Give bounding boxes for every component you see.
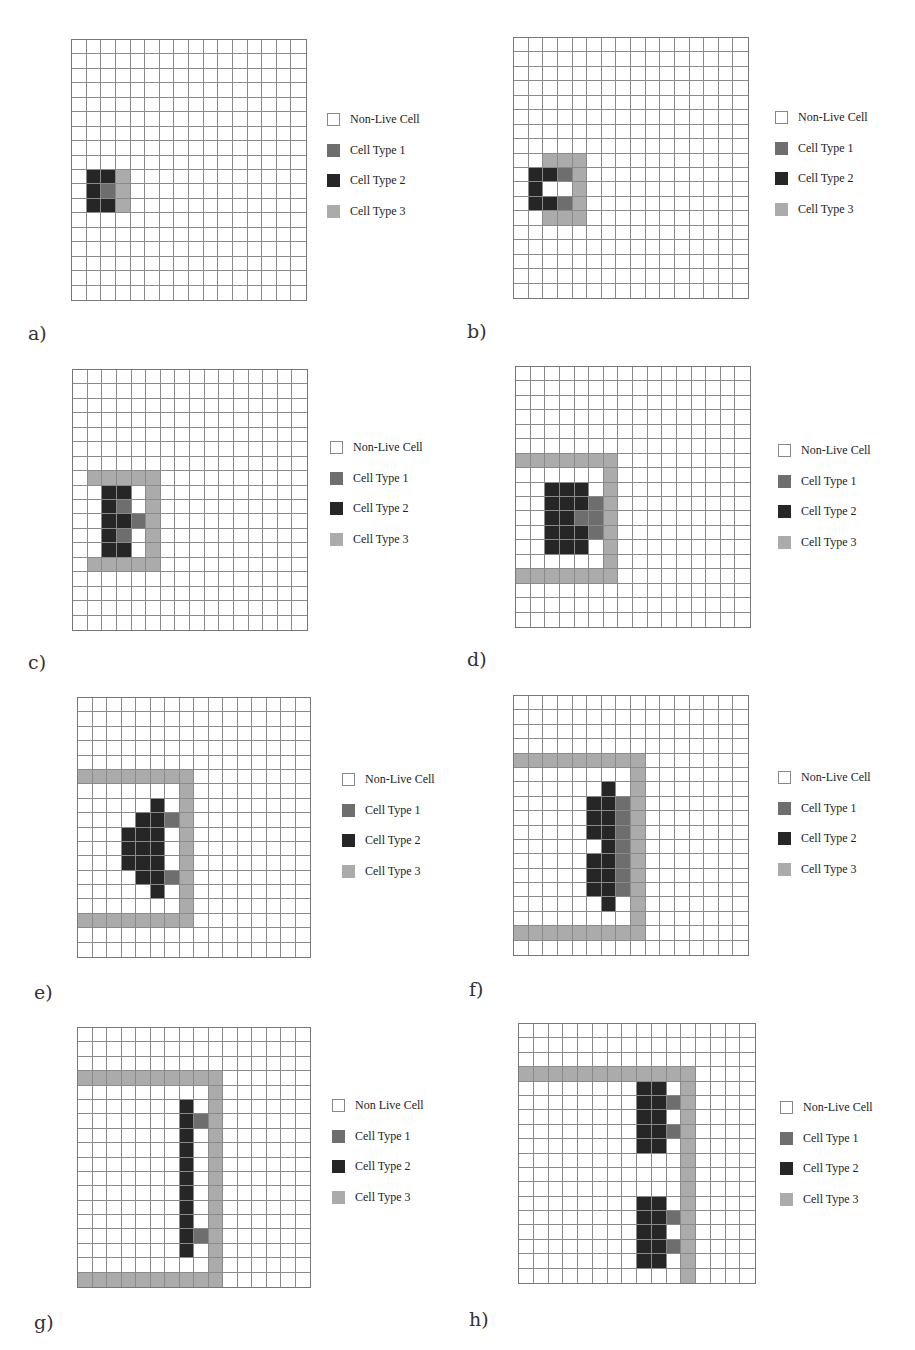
non-live-cell	[292, 413, 307, 427]
non-live-cell	[267, 914, 282, 928]
cell-type-3	[573, 197, 588, 211]
non-live-cell	[573, 38, 588, 52]
non-live-cell	[587, 768, 602, 782]
cell-type-3	[681, 1182, 696, 1196]
cell-type-2	[602, 897, 617, 911]
non-live-cell	[88, 457, 103, 471]
non-live-cell	[234, 558, 249, 572]
non-live-cell	[93, 1143, 108, 1157]
cell-type-3	[146, 471, 161, 485]
non-live-cell	[78, 727, 93, 741]
non-live-cell	[519, 1096, 534, 1110]
cell-type-2	[575, 526, 590, 540]
non-live-cell	[675, 739, 690, 753]
non-live-cell	[648, 598, 663, 612]
cell-type-3	[180, 914, 195, 928]
non-live-cell	[616, 96, 631, 110]
non-live-cell	[161, 514, 176, 528]
non-live-cell	[296, 885, 311, 899]
non-live-cell	[516, 555, 531, 569]
non-live-cell	[573, 67, 588, 81]
non-live-cell	[161, 384, 176, 398]
cell-type-3	[563, 1067, 578, 1081]
non-live-cell	[696, 1110, 711, 1124]
non-live-cell	[573, 139, 588, 153]
non-live-cell	[190, 500, 205, 514]
non-live-cell	[558, 125, 573, 139]
non-live-cell	[219, 384, 234, 398]
non-live-cell	[194, 756, 209, 770]
non-live-cell	[675, 768, 690, 782]
non-live-cell	[675, 197, 690, 211]
swatch-icon	[778, 832, 791, 845]
non-live-cell	[223, 770, 238, 784]
cell-grid	[513, 37, 749, 299]
non-live-cell	[223, 784, 238, 798]
non-live-cell	[175, 543, 190, 557]
non-live-cell	[87, 54, 102, 68]
non-live-cell	[735, 555, 750, 569]
non-live-cell	[93, 1042, 108, 1056]
non-live-cell	[136, 1244, 151, 1258]
non-live-cell	[545, 410, 560, 424]
non-live-cell	[189, 69, 204, 83]
cell-type-3	[132, 471, 147, 485]
non-live-cell	[87, 156, 102, 170]
cell-type-2	[136, 856, 151, 870]
non-live-cell	[165, 727, 180, 741]
non-live-cell	[692, 396, 707, 410]
non-live-cell	[573, 797, 588, 811]
non-live-cell	[692, 511, 707, 525]
non-live-cell	[205, 486, 220, 500]
non-live-cell	[262, 228, 277, 242]
non-live-cell	[223, 856, 238, 870]
cell-type-3	[209, 1172, 224, 1186]
non-live-cell	[160, 98, 175, 112]
non-live-cell	[648, 569, 663, 583]
non-live-cell	[696, 1154, 711, 1168]
non-live-cell	[733, 797, 748, 811]
non-live-cell	[706, 540, 721, 554]
non-live-cell	[696, 1254, 711, 1268]
non-live-cell	[249, 413, 264, 427]
cell-type-3	[136, 1071, 151, 1085]
cell-type-3	[165, 1273, 180, 1287]
non-live-cell	[529, 869, 544, 883]
non-live-cell	[252, 1258, 267, 1272]
cell-type-2	[652, 1082, 667, 1096]
cell-type-2	[151, 856, 166, 870]
non-live-cell	[161, 486, 176, 500]
non-live-cell	[704, 854, 719, 868]
legend-label: Cell Type 1	[803, 1131, 859, 1146]
non-live-cell	[733, 840, 748, 854]
cell-type-1	[589, 497, 604, 511]
non-live-cell	[573, 869, 588, 883]
non-live-cell	[711, 1082, 726, 1096]
non-live-cell	[602, 168, 617, 182]
non-live-cell	[531, 439, 546, 453]
non-live-cell	[78, 1129, 93, 1143]
non-live-cell	[107, 928, 122, 942]
non-live-cell	[602, 226, 617, 240]
non-live-cell	[514, 869, 529, 883]
non-live-cell	[267, 1215, 282, 1229]
cell-type-3	[146, 543, 161, 557]
non-live-cell	[675, 52, 690, 66]
non-live-cell	[131, 141, 146, 155]
non-live-cell	[262, 156, 277, 170]
non-live-cell	[602, 67, 617, 81]
cell-type-3	[209, 1100, 224, 1114]
non-live-cell	[677, 540, 692, 554]
non-live-cell	[519, 1225, 534, 1239]
non-live-cell	[160, 127, 175, 141]
non-live-cell	[194, 899, 209, 913]
cell-type-2	[529, 197, 544, 211]
cell-type-3	[132, 558, 147, 572]
non-live-cell	[267, 856, 282, 870]
non-live-cell	[263, 471, 278, 485]
legend-label: Cell Type 3	[803, 1192, 859, 1207]
non-live-cell	[631, 710, 646, 724]
non-live-cell	[719, 81, 734, 95]
non-live-cell	[116, 69, 131, 83]
non-live-cell	[514, 96, 529, 110]
